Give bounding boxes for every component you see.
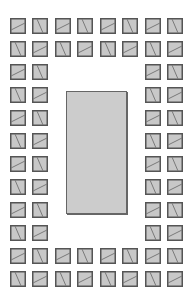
tile: [145, 110, 161, 126]
tile: [167, 156, 183, 172]
tile: [32, 248, 48, 264]
diagonal-rising-icon: [100, 18, 116, 34]
tile: [145, 179, 161, 195]
tile: [32, 225, 48, 241]
tile: [10, 248, 26, 264]
diagonal-rising-icon: [32, 133, 48, 149]
diagonal-rising-icon: [10, 64, 26, 80]
diagonal-falling-icon: [10, 41, 26, 57]
tile: [100, 41, 116, 57]
diagonal-rising-icon: [145, 64, 161, 80]
tile: [10, 271, 26, 287]
tile: [77, 271, 93, 287]
tile: [145, 156, 161, 172]
diagonal-rising-icon: [167, 41, 183, 57]
diagonal-falling-icon: [167, 156, 183, 172]
diagonal-falling-icon: [167, 18, 183, 34]
tile: [32, 133, 48, 149]
tile: [145, 133, 161, 149]
diagonal-rising-icon: [167, 225, 183, 241]
diagonal-falling-icon: [145, 41, 161, 57]
tile: [122, 41, 138, 57]
tile: [100, 248, 116, 264]
diagonal-falling-icon: [100, 271, 116, 287]
diagonal-falling-icon: [32, 248, 48, 264]
tile: [145, 225, 161, 241]
diagonal-rising-icon: [55, 18, 71, 34]
tile: [32, 179, 48, 195]
tile: [32, 41, 48, 57]
tile: [55, 18, 71, 34]
diagonal-rising-icon: [77, 271, 93, 287]
diagonal-rising-icon: [32, 225, 48, 241]
tile: [32, 87, 48, 103]
tile: [145, 18, 161, 34]
diagonal-falling-icon: [145, 133, 161, 149]
tile: [167, 179, 183, 195]
diagonal-falling-icon: [10, 179, 26, 195]
diagonal-falling-icon: [167, 248, 183, 264]
diagonal-falling-icon: [167, 64, 183, 80]
tile: [32, 271, 48, 287]
diagonal-rising-icon: [55, 248, 71, 264]
tile: [10, 133, 26, 149]
tile: [122, 271, 138, 287]
tile: [10, 110, 26, 126]
diagonal-falling-icon: [32, 202, 48, 218]
diagonal-falling-icon: [100, 41, 116, 57]
tile: [122, 248, 138, 264]
tile: [145, 41, 161, 57]
tile: [32, 156, 48, 172]
tile: [10, 41, 26, 57]
tile: [32, 110, 48, 126]
tile: [167, 225, 183, 241]
diagonal-falling-icon: [122, 18, 138, 34]
tile: [100, 18, 116, 34]
tile: [145, 248, 161, 264]
tile: [145, 202, 161, 218]
diagonal-falling-icon: [145, 87, 161, 103]
tile: [32, 18, 48, 34]
diagonal-falling-icon: [32, 156, 48, 172]
diagonal-rising-icon: [32, 271, 48, 287]
tile: [100, 271, 116, 287]
diagonal-falling-icon: [145, 271, 161, 287]
tile-ring-diagram: [0, 0, 193, 300]
tile: [167, 87, 183, 103]
diagonal-rising-icon: [167, 87, 183, 103]
center-rectangle: [66, 91, 127, 214]
tile: [10, 225, 26, 241]
tile: [145, 271, 161, 287]
diagonal-falling-icon: [122, 248, 138, 264]
diagonal-rising-icon: [167, 133, 183, 149]
diagonal-rising-icon: [100, 248, 116, 264]
diagonal-rising-icon: [145, 248, 161, 264]
diagonal-falling-icon: [10, 271, 26, 287]
tile: [167, 248, 183, 264]
diagonal-falling-icon: [55, 271, 71, 287]
diagonal-falling-icon: [77, 248, 93, 264]
tile: [10, 156, 26, 172]
diagonal-rising-icon: [10, 18, 26, 34]
diagonal-falling-icon: [77, 18, 93, 34]
tile: [55, 248, 71, 264]
tile: [77, 41, 93, 57]
diagonal-rising-icon: [10, 202, 26, 218]
diagonal-rising-icon: [145, 156, 161, 172]
diagonal-rising-icon: [167, 271, 183, 287]
diagonal-rising-icon: [122, 271, 138, 287]
diagonal-rising-icon: [145, 202, 161, 218]
tile: [32, 202, 48, 218]
tile: [10, 64, 26, 80]
diagonal-falling-icon: [145, 179, 161, 195]
diagonal-falling-icon: [10, 133, 26, 149]
diagonal-rising-icon: [32, 41, 48, 57]
diagonal-falling-icon: [10, 225, 26, 241]
tile: [55, 271, 71, 287]
diagonal-falling-icon: [32, 110, 48, 126]
diagonal-falling-icon: [55, 41, 71, 57]
tile: [167, 133, 183, 149]
tile: [167, 64, 183, 80]
tile: [10, 179, 26, 195]
tile: [10, 18, 26, 34]
